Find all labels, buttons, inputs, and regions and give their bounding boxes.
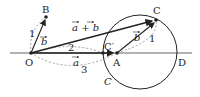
label-length-1-right: 1	[149, 33, 155, 44]
point-O	[29, 51, 33, 55]
diagram-svg: O B A C C′ D C b a + b a b 1 2 3 1	[0, 0, 200, 97]
label-vec-b-right: b	[134, 32, 140, 43]
point-C	[154, 18, 158, 22]
label-vec-a-plus-b: a + b	[72, 22, 99, 33]
point-A	[115, 51, 119, 55]
label-vec-a: a	[73, 57, 79, 68]
label-O: O	[25, 57, 33, 68]
circle-c	[103, 15, 177, 89]
label-length-3: 3	[81, 64, 87, 75]
label-B: B	[42, 4, 49, 15]
label-A: A	[112, 57, 121, 68]
label-Cprime: C′	[104, 41, 115, 52]
label-length-2: 2	[68, 42, 74, 53]
point-B	[44, 15, 48, 19]
label-D: D	[178, 57, 186, 68]
label-C: C	[153, 5, 161, 16]
vector-diagram: O B A C C′ D C b a + b a b 1 2 3 1	[0, 0, 200, 97]
label-length-1-left: 1	[29, 28, 35, 39]
label-circle-C: C	[104, 76, 112, 87]
label-vec-b-left: b	[41, 36, 47, 47]
